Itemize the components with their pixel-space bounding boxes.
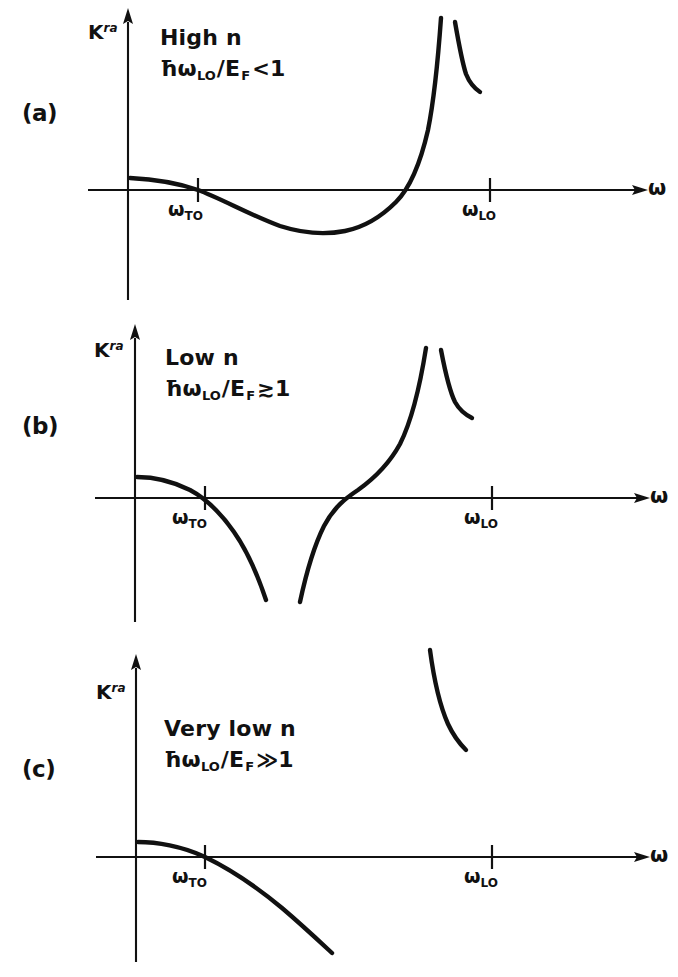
y-axis-arrowhead-c	[131, 654, 141, 670]
panel-c-plot	[0, 640, 678, 977]
curve-b-middle-branch	[300, 348, 426, 602]
curve-b-left-branch	[137, 477, 266, 600]
curve-c-main-branch	[138, 842, 332, 953]
y-axis-arrowhead-b	[130, 324, 140, 340]
curve-a-main-branch	[130, 18, 441, 233]
panel-a: (a) Kra High n ħωLO/EF<1 ωTO ωLO ω	[0, 0, 678, 310]
curve-b-right-branch	[441, 350, 472, 418]
curve-a-right-branch	[455, 22, 480, 92]
panel-b-plot	[0, 310, 678, 640]
curve-c-detached-branch	[430, 650, 466, 750]
y-axis-arrowhead-a	[123, 8, 133, 24]
panel-a-plot	[0, 0, 678, 310]
panel-b: (b) Kra Low n ħωLO/EF≳1 ωTO ωLO ω	[0, 310, 678, 640]
panel-c: (c) Kra Very low n ħωLO/EF≫1 ωTO ωLO ω	[0, 640, 678, 977]
figure-root: (a) Kra High n ħωLO/EF<1 ωTO ωLO ω (b)	[0, 0, 678, 977]
